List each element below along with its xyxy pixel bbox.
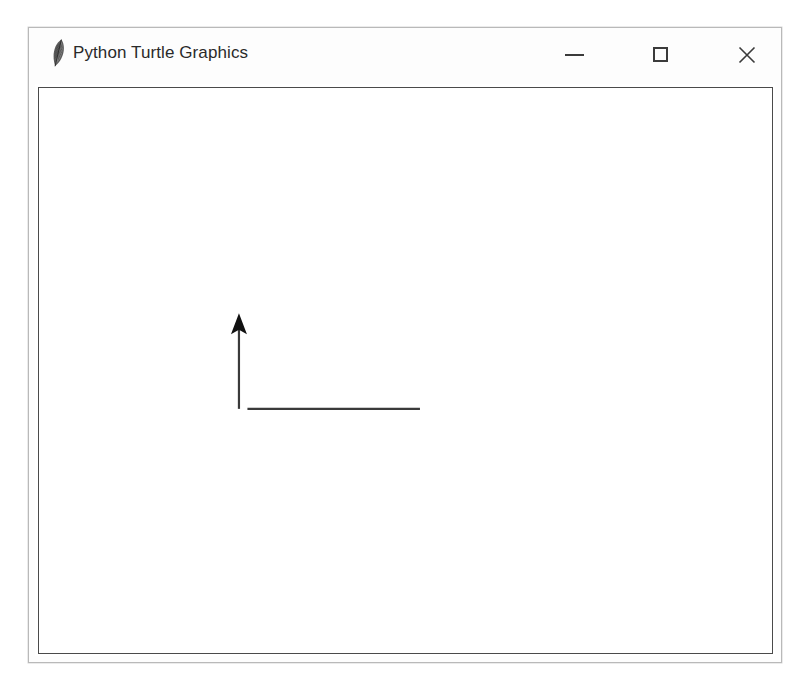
title-bar[interactable]: Python Turtle Graphics [29, 28, 781, 82]
turtle-graphics-window: Python Turtle Graphics [28, 27, 782, 663]
python-feather-icon [45, 38, 71, 68]
minimize-icon [565, 54, 584, 56]
turtle-canvas[interactable] [38, 87, 773, 654]
maximize-icon [653, 47, 668, 62]
turtle-drawing-surface [39, 88, 772, 653]
close-button[interactable] [717, 28, 777, 81]
turtle-path [239, 325, 420, 409]
minimize-button[interactable] [544, 28, 604, 81]
canvas-frame [35, 84, 775, 656]
maximize-button[interactable] [630, 28, 690, 81]
window-title: Python Turtle Graphics [73, 40, 248, 66]
close-icon [738, 46, 756, 64]
